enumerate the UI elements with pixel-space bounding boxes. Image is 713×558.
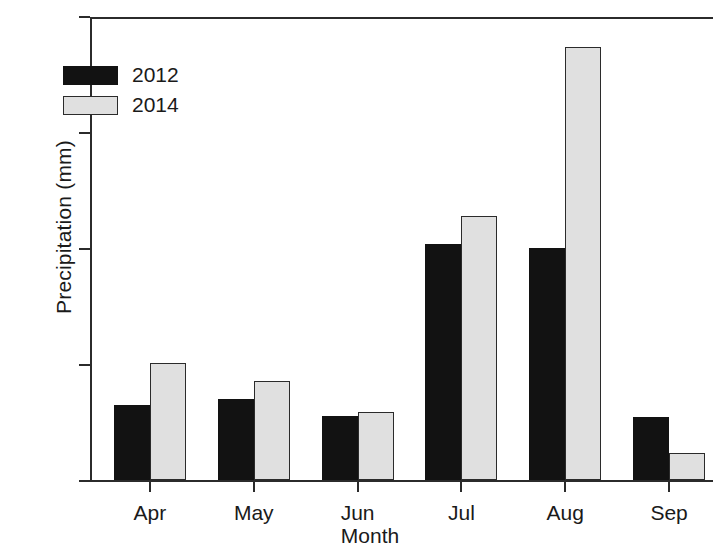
x-axis-label: Month (90, 524, 650, 548)
bar-may-2014 (254, 381, 290, 480)
x-axis-tick (357, 481, 359, 492)
x-axis-tick (149, 481, 151, 492)
bar-sep-2012 (633, 417, 669, 480)
y-axis-tick (79, 364, 90, 366)
axis-bottom-spine (90, 480, 713, 482)
precipitation-bar-chart: Precipitation (mm) Month 020406080 AprMa… (0, 0, 713, 558)
legend-item-2012: 2012 (63, 60, 179, 90)
legend: 20122014 (63, 60, 179, 120)
bar-jun-2014 (358, 412, 394, 480)
bar-apr-2014 (150, 363, 186, 480)
x-axis-tick-label: Sep (619, 501, 713, 525)
legend-label-2014: 2014 (132, 93, 179, 117)
bar-jun-2012 (322, 416, 358, 480)
x-axis-tick (253, 481, 255, 492)
bar-jul-2014 (461, 216, 497, 480)
x-axis-tick (564, 481, 566, 492)
x-axis-tick-label: Jul (411, 501, 511, 525)
y-axis-tick (79, 16, 90, 18)
y-axis-tick (79, 132, 90, 134)
x-axis-tick-label: Apr (100, 501, 200, 525)
x-axis-tick-label: Aug (515, 501, 615, 525)
y-axis-tick (79, 480, 90, 482)
legend-item-2014: 2014 (63, 90, 179, 120)
axis-top-spine (90, 17, 713, 19)
legend-swatch-2014 (63, 96, 118, 115)
legend-swatch-2012 (63, 66, 118, 85)
x-axis-tick-label: Jun (308, 501, 408, 525)
bar-aug-2012 (529, 248, 565, 480)
bar-aug-2014 (565, 47, 601, 480)
bar-apr-2012 (114, 405, 150, 480)
bar-sep-2014 (669, 453, 705, 480)
legend-label-2012: 2012 (132, 63, 179, 87)
plot-area: AprMayJunJulAugSep (90, 17, 713, 481)
bar-jul-2012 (425, 244, 461, 480)
x-axis-tick (668, 481, 670, 492)
x-axis-tick-label: May (204, 501, 304, 525)
bar-may-2012 (218, 399, 254, 480)
x-axis-tick (460, 481, 462, 492)
y-axis-tick (79, 248, 90, 250)
